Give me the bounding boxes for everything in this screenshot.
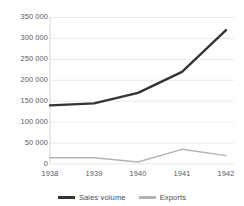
legend-item-sales-volume: Sales volume xyxy=(58,193,126,202)
legend-label: Exports xyxy=(160,193,186,202)
x-tick-label: 1941 xyxy=(174,170,191,178)
x-axis-tick-labels: 19381939194019411942 xyxy=(0,0,244,206)
x-tick-label: 1940 xyxy=(130,170,147,178)
chart-legend: Sales volumeExports xyxy=(0,193,244,202)
x-tick-label: 1942 xyxy=(218,170,235,178)
plot-area: 050 000100 000150 000200 000250 000300 0… xyxy=(0,0,244,206)
legend-label: Sales volume xyxy=(79,193,126,202)
legend-swatch-icon xyxy=(58,196,75,199)
legend-item-exports: Exports xyxy=(139,193,186,202)
x-tick-label: 1938 xyxy=(42,170,59,178)
line-chart: 050 000100 000150 000200 000250 000300 0… xyxy=(0,0,244,206)
x-tick-label: 1939 xyxy=(86,170,103,178)
legend-swatch-icon xyxy=(139,196,156,198)
